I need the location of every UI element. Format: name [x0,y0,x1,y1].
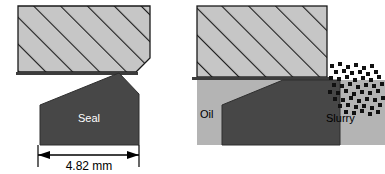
slurry-label: Slurry [326,112,355,124]
oil-label: Oil [200,108,213,120]
seal-cross-section-diagram: Seal 4.82 mm [0,0,385,174]
seal-label: Seal [78,112,100,124]
hatched-block-icon [18,6,150,72]
dimension-value-label: 4.82 mm [66,159,113,173]
hatched-block-icon-right [197,6,327,77]
figure-root: Seal 4.82 mm [0,0,385,174]
